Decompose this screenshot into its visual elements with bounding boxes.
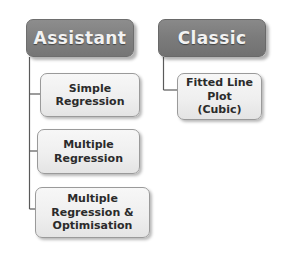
node-assistant-header-label: Assistant	[30, 29, 131, 48]
node-multiple-regression[interactable]: Multiple Regression	[37, 129, 140, 174]
diagram-canvas: Assistant Simple Regression Multiple Reg…	[0, 0, 284, 259]
node-assistant-header[interactable]: Assistant	[26, 19, 134, 57]
node-multiple-regression-label: Multiple Regression	[50, 138, 127, 165]
node-simple-regression[interactable]: Simple Regression	[40, 73, 140, 117]
node-multiple-regression-optimisation-label: Multiple Regression & Optimisation	[47, 192, 137, 232]
node-classic-header-label: Classic	[174, 29, 251, 48]
node-multiple-regression-optimisation[interactable]: Multiple Regression & Optimisation	[35, 187, 150, 238]
node-classic-header[interactable]: Classic	[158, 19, 266, 57]
node-fitted-line-plot-cubic[interactable]: Fitted Line Plot (Cubic)	[177, 73, 262, 120]
node-simple-regression-label: Simple Regression	[52, 82, 129, 109]
node-fitted-line-plot-cubic-label: Fitted Line Plot (Cubic)	[182, 76, 257, 116]
